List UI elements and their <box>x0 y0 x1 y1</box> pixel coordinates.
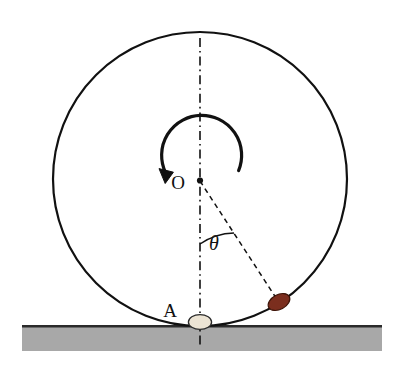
contact-label-a: A <box>163 300 177 321</box>
diagram-canvas: O A θ <box>0 0 403 365</box>
center-label-o: O <box>171 172 185 193</box>
physics-diagram-figure: O A θ <box>0 0 403 365</box>
contact-bead-mass <box>188 315 211 330</box>
center-point-dot <box>197 177 203 183</box>
rotation-arc-path <box>162 115 242 172</box>
angle-label-theta: θ <box>209 232 219 254</box>
red-bead-mass <box>265 290 292 314</box>
